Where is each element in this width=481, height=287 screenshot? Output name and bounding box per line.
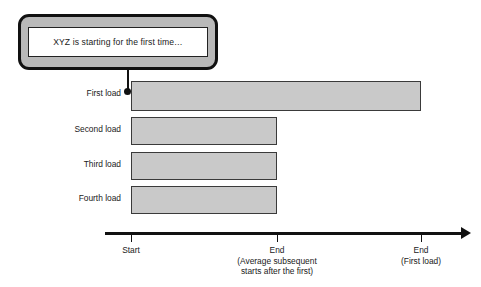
bar-fourth-load (131, 186, 277, 214)
bar-second-load (131, 117, 277, 145)
axis-label-end-first-load-line2: (First load) (376, 256, 466, 267)
callout-inner-box: XYZ is starting for the first time… (28, 27, 208, 57)
axis-label-end-first-load: End (First load) (376, 245, 466, 266)
callout-pointer-dot (124, 88, 131, 95)
bar-first-load (131, 81, 421, 111)
axis-label-end-first-load-line1: End (376, 245, 466, 256)
axis-tick-end-first-load (421, 234, 422, 242)
axis-label-end-average-line1: End (202, 245, 352, 256)
bar-third-load (131, 152, 277, 180)
callout-message: XYZ is starting for the first time… (53, 37, 183, 47)
axis-label-end-average-line3: starts after the first) (202, 266, 352, 277)
time-axis-arrow-icon (461, 227, 471, 239)
bar-label-third-load: Third load (51, 159, 121, 169)
axis-label-end-average-line2: (Average subsequent (202, 256, 352, 267)
axis-tick-start (131, 234, 132, 242)
callout-pointer-line (127, 69, 129, 90)
bar-label-fourth-load: Fourth load (45, 193, 121, 203)
figure-canvas: XYZ is starting for the first time… Firs… (0, 0, 481, 287)
callout-box: XYZ is starting for the first time… (18, 14, 218, 70)
axis-tick-end-average (277, 234, 278, 242)
bar-label-second-load: Second load (41, 124, 121, 134)
axis-label-end-average: End (Average subsequent starts after the… (202, 245, 352, 277)
time-axis-line (105, 232, 465, 235)
bar-label-first-load: First load (51, 88, 121, 98)
axis-label-start: Start (101, 245, 161, 256)
